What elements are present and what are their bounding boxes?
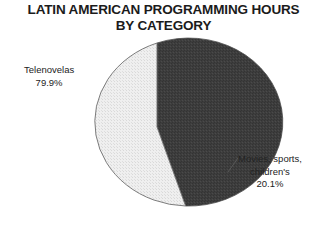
slice-label-telenovelas: Telenovelas 79.9% xyxy=(24,64,74,89)
pie-svg xyxy=(0,0,327,229)
slice-label-telenovelas-name: Telenovelas xyxy=(24,64,74,77)
slice-label-movies-sports-childrens: Movies, sports, children's 20.1% xyxy=(238,153,302,191)
pie-graphic xyxy=(0,0,327,229)
slice-label-movies-line-2: children's xyxy=(238,166,302,179)
slice-label-movies-line-1: Movies, sports, xyxy=(238,153,302,166)
slice-label-telenovelas-value: 79.9% xyxy=(24,77,74,90)
pie-chart-figure: LATIN AMERICAN PROGRAMMING HOURS BY CATE… xyxy=(0,0,327,229)
slice-label-movies-value: 20.1% xyxy=(238,178,302,191)
